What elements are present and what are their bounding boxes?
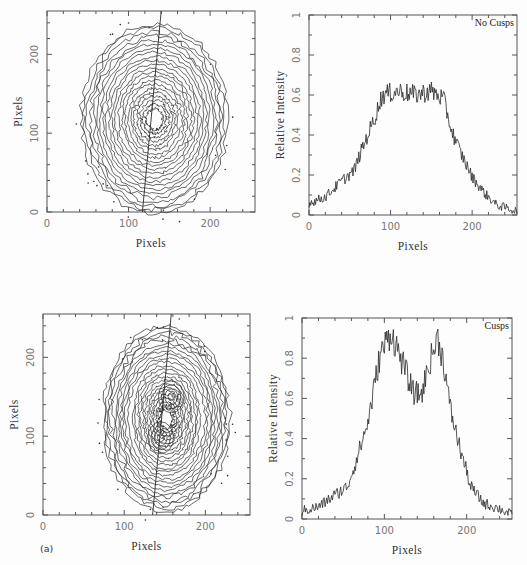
x-axis-label: Pixels — [136, 237, 167, 249]
intensity-profile-line — [302, 329, 512, 515]
y-tick-label: 1 — [291, 12, 302, 18]
y-tick-label: 0 — [25, 512, 36, 518]
contour-line — [89, 34, 220, 203]
y-tick-label: 0.8 — [284, 350, 295, 366]
x-tick-label: 200 — [457, 525, 476, 536]
y-tick-label: 0.4 — [284, 431, 295, 447]
profile-plot-top-right: 010020000.20.40.60.81PixelsRelative Inte… — [274, 12, 517, 252]
x-tick-label: 0 — [44, 218, 50, 229]
x-tick-label: 100 — [375, 525, 394, 536]
y-axis-label: Relative Intensity — [267, 374, 280, 463]
y-tick-label: 0.2 — [291, 167, 302, 183]
profile-plot-bottom-right: 010020000.20.40.60.81PixelsRelative Inte… — [267, 315, 512, 556]
contour-line — [133, 92, 177, 147]
contour-line — [145, 107, 164, 130]
x-tick-label: 100 — [115, 521, 134, 532]
plot-frame — [302, 318, 512, 519]
intensity-profile-line — [309, 82, 517, 214]
y-tick-label: 100 — [29, 124, 40, 143]
x-tick-label: 100 — [381, 221, 400, 232]
contour-line — [105, 56, 204, 183]
y-tick-label: 0 — [29, 209, 40, 215]
contour-line — [99, 48, 210, 191]
x-axis-label: Pixels — [392, 544, 423, 556]
y-tick-label: 1 — [284, 315, 295, 321]
annotation-label: Cusps — [485, 320, 510, 331]
y-axis-label: Relative Intensity — [274, 71, 287, 160]
y-tick-label: 200 — [29, 45, 40, 64]
y-tick-label: 0.4 — [291, 127, 302, 143]
x-axis-label: Pixels — [131, 540, 162, 552]
contour-line — [93, 40, 218, 200]
contour-plot-top-left: 01002000100200PixelsPixels — [12, 11, 255, 249]
x-axis-label: Pixels — [398, 240, 429, 252]
y-axis-label: Pixels — [8, 399, 20, 430]
x-tick-label: 0 — [306, 221, 312, 232]
y-tick-label: 0.2 — [284, 471, 295, 487]
contour-plot-bottom-left: 01002000100200PixelsPixels — [8, 314, 250, 552]
y-tick-label: 0.6 — [291, 87, 302, 103]
y-tick-label: 200 — [25, 348, 36, 367]
y-tick-label: 0.8 — [291, 47, 302, 63]
panel-label: (a) — [40, 543, 53, 554]
x-tick-label: 200 — [196, 521, 215, 532]
contour-line — [127, 83, 183, 155]
plot-frame — [309, 15, 517, 215]
x-tick-label: 200 — [463, 221, 482, 232]
contour-line — [107, 331, 226, 507]
x-tick-label: 0 — [299, 525, 305, 536]
figure-canvas: 01002000100200PixelsPixels010020000.20.4… — [0, 0, 527, 565]
x-tick-label: 0 — [40, 521, 46, 532]
x-tick-label: 100 — [119, 218, 138, 229]
annotation-label: No Cusps — [475, 17, 514, 28]
y-tick-label: 0 — [291, 212, 302, 218]
y-tick-label: 0.6 — [284, 390, 295, 406]
y-axis-label: Pixels — [12, 96, 24, 127]
x-tick-label: 200 — [201, 218, 220, 229]
cut-line — [153, 314, 172, 515]
y-tick-label: 0 — [284, 516, 295, 522]
contour-line — [118, 71, 193, 166]
y-tick-label: 100 — [25, 427, 36, 446]
figure: 01002000100200PixelsPixels010020000.20.4… — [0, 0, 527, 565]
